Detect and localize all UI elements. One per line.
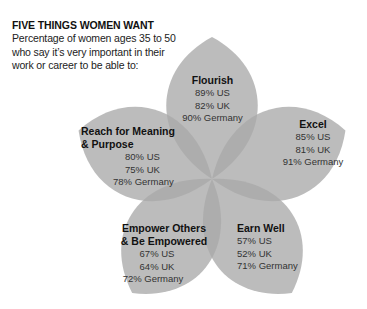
value-us: 80% US bbox=[81, 151, 196, 164]
value-uk: 81% UK bbox=[258, 144, 367, 157]
petal-label-flourish: Flourish 89% US 82% UK 90% Germany bbox=[165, 74, 260, 125]
value-germany: 71% Germany bbox=[237, 260, 317, 273]
petal-heading: Reach for Meaning bbox=[81, 125, 196, 138]
petal-label-excel: Excel 85% US 81% UK 91% Germany bbox=[258, 118, 367, 169]
petal-label-reach: Reach for Meaning & Purpose 80% US 75% U… bbox=[81, 125, 196, 189]
petal-label-earn-well: Earn Well 57% US 52% UK 71% Germany bbox=[237, 222, 317, 273]
petal-heading: Excel bbox=[258, 118, 367, 131]
value-germany: 72% Germany bbox=[118, 273, 210, 286]
value-uk: 75% UK bbox=[81, 164, 196, 177]
value-us: 57% US bbox=[237, 235, 317, 248]
value-germany: 90% Germany bbox=[165, 112, 260, 125]
petal-heading: & Be Empowered bbox=[118, 235, 210, 248]
petal-heading: Earn Well bbox=[237, 222, 317, 235]
petal-heading: Empower Others bbox=[118, 222, 210, 235]
value-us: 67% US bbox=[118, 248, 210, 261]
petal-label-empower: Empower Others & Be Empowered 67% US 64%… bbox=[118, 222, 210, 286]
value-us: 89% US bbox=[165, 87, 260, 100]
value-us: 85% US bbox=[258, 131, 367, 144]
value-germany: 91% Germany bbox=[258, 156, 367, 169]
value-uk: 82% UK bbox=[165, 100, 260, 113]
value-uk: 52% UK bbox=[237, 248, 317, 261]
petal-heading: Flourish bbox=[165, 74, 260, 87]
petal-heading: & Purpose bbox=[81, 138, 196, 151]
value-germany: 78% Germany bbox=[81, 176, 196, 189]
value-uk: 64% UK bbox=[118, 261, 210, 274]
